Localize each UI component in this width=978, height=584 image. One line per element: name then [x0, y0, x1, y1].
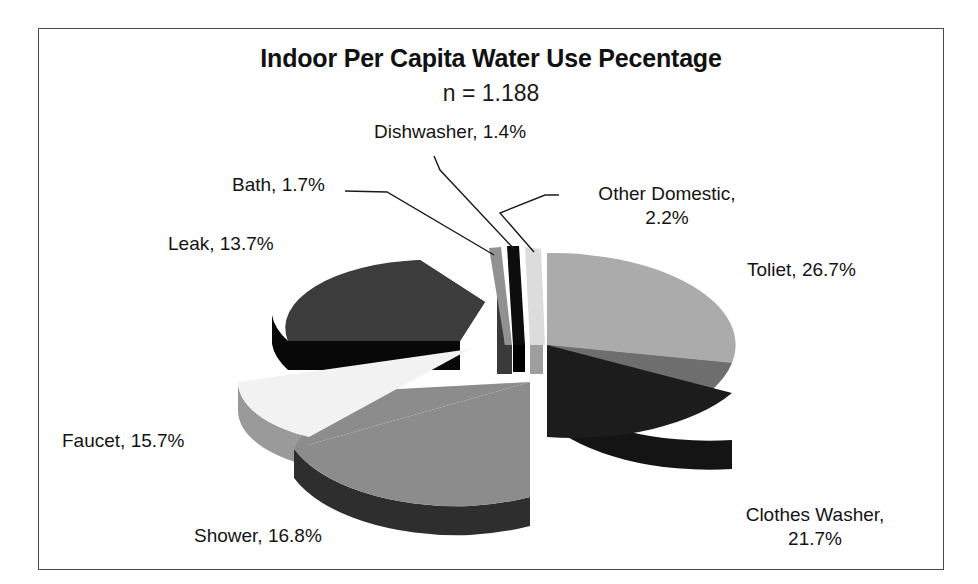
label-toilet: Toliet, 26.7%	[747, 258, 937, 282]
leader-line-bath	[345, 191, 494, 255]
leader-lines	[345, 156, 559, 255]
pie-top-surfaces	[238, 246, 736, 506]
label-faucet: Faucet, 15.7%	[62, 429, 262, 453]
leader-line-dishwasher	[434, 156, 515, 250]
chart-figure: Indoor Per Capita Water Use Pecentage n …	[0, 0, 978, 584]
label-dishwasher: Dishwasher, 1.4%	[330, 120, 570, 144]
label-leak: Leak, 13.7%	[168, 232, 338, 256]
label-bath: Bath, 1.7%	[232, 173, 372, 197]
label-clothes-washer: Clothes Washer, 21.7%	[700, 503, 930, 551]
slice-top-leak-b	[285, 260, 485, 341]
label-other-domestic: Other Domestic, 2.2%	[562, 182, 772, 230]
slice-top-other-domestic	[525, 247, 545, 345]
slice-top-toilet	[547, 253, 736, 363]
label-shower: Shower, 16.8%	[194, 524, 394, 548]
pie-chart-graphic	[0, 0, 978, 584]
